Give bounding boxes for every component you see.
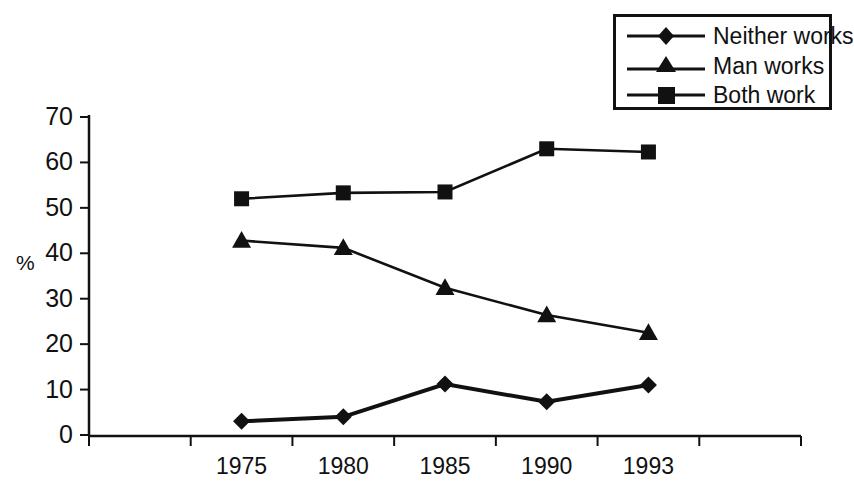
y-tick-label: 0: [3, 422, 73, 447]
legend-label: Neither works: [713, 23, 854, 49]
data-point-marker: [232, 231, 251, 248]
data-point-marker: [436, 278, 455, 295]
chart-axes: [80, 115, 801, 446]
series-layer: [232, 141, 658, 430]
x-axis-ticks: [89, 436, 801, 446]
diamond-marker-icon: [625, 20, 707, 52]
y-axis-ticks: [80, 117, 89, 435]
legend-label: Man works: [713, 53, 824, 79]
y-tick-label: 30: [3, 286, 73, 311]
data-point-marker: [234, 191, 249, 206]
data-point-marker: [335, 408, 352, 425]
legend-entry-man-works: Man works: [616, 50, 829, 82]
y-tick-label: 70: [3, 104, 73, 129]
data-point-marker: [336, 185, 351, 200]
chart-legend: Neither works Man works Both work: [613, 14, 832, 110]
data-point-marker: [640, 377, 657, 394]
y-tick-label: 50: [3, 195, 73, 220]
series-neither-works: [233, 376, 657, 430]
series-man-works: [232, 231, 658, 340]
data-point-marker: [539, 141, 554, 156]
data-point-marker: [438, 184, 453, 199]
y-tick-label: 20: [3, 331, 73, 356]
data-point-marker: [641, 144, 656, 159]
x-tick-label: 1993: [588, 455, 708, 478]
y-axis-title: %: [16, 252, 35, 273]
legend-entry-both-work: Both work: [616, 79, 829, 111]
data-point-marker: [233, 413, 250, 430]
legend-label: Both work: [713, 82, 815, 108]
y-tick-label: 10: [3, 377, 73, 402]
data-point-marker: [538, 393, 555, 410]
y-tick-label: 40: [3, 240, 73, 265]
legend-entry-neither-works: Neither works: [616, 20, 829, 52]
series-both-work: [234, 141, 656, 206]
y-tick-label: 60: [3, 149, 73, 174]
square-marker-icon: [625, 79, 707, 111]
data-point-marker: [437, 376, 454, 393]
triangle-marker-icon: [625, 50, 707, 82]
